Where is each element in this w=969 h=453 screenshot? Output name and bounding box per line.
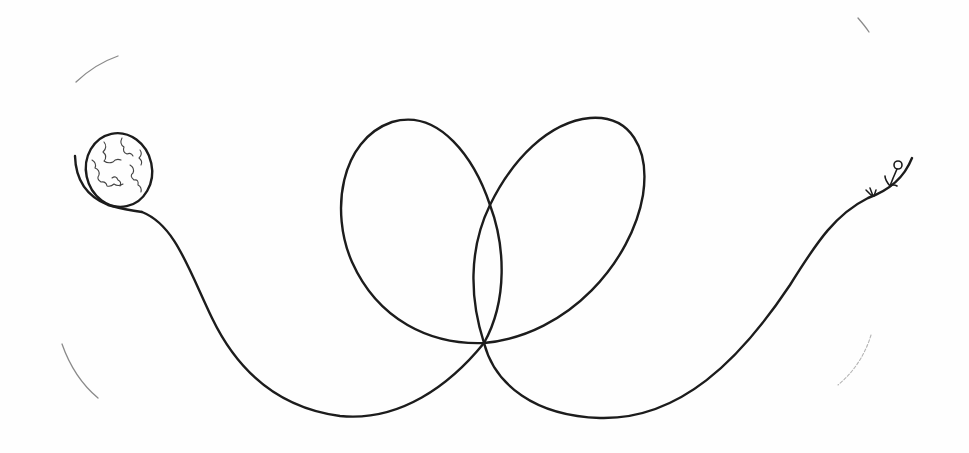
left-tail — [142, 212, 484, 417]
corner-arc-bottom-left — [62, 344, 98, 398]
sketch-drawing — [0, 0, 969, 453]
corner-arc-top-left — [76, 56, 118, 82]
sketch-canvas: Hand-drawn pencil sketch A globe on the … — [0, 0, 969, 453]
corner-arc-top-right — [858, 18, 869, 32]
corner-arcs — [62, 18, 871, 398]
right-loop — [473, 118, 644, 343]
corner-arc-bottom-right — [838, 335, 871, 385]
globe-icon — [79, 127, 159, 213]
right-tail — [484, 158, 912, 418]
looping-line — [142, 118, 912, 418]
left-loop — [341, 120, 502, 343]
